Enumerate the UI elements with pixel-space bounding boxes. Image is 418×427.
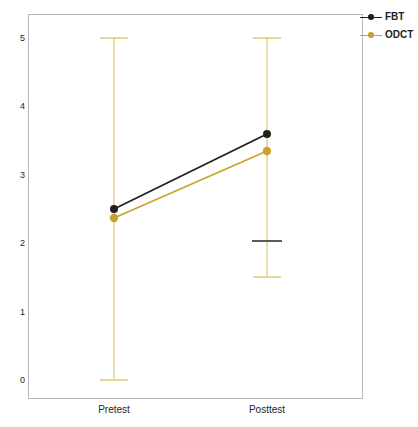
- chart-figure: 5 4 3 2 1 0 Pretest Posttest: [0, 0, 418, 427]
- datapoint-fbt-pretest: [110, 205, 118, 213]
- legend-label-odct: ODCT: [385, 30, 413, 40]
- series-line-fbt: [114, 134, 267, 209]
- legend-item-fbt[interactable]: FBT: [360, 8, 418, 26]
- datapoint-fbt-posttest: [263, 130, 271, 138]
- legend-item-odct[interactable]: ODCT: [360, 26, 418, 44]
- datapoint-odct-posttest: [263, 147, 271, 155]
- datapoint-odct-pretest: [110, 214, 118, 222]
- series-line-odct: [114, 151, 267, 218]
- chart-legend: FBT ODCT: [360, 8, 418, 44]
- legend-label-fbt: FBT: [385, 12, 404, 22]
- legend-marker-odct-icon: [360, 30, 382, 40]
- legend-marker-fbt-icon: [360, 12, 382, 22]
- chart-plot-layer: [0, 0, 418, 427]
